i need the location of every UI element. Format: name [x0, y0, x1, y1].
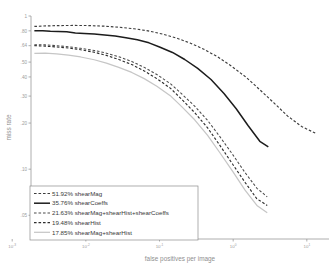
x-tick-label: 101	[303, 243, 310, 249]
y-tick-label: .64	[21, 43, 28, 48]
curve-shearCoeffs	[34, 31, 268, 147]
legend-label-shearMag+shearHist: 17.85% shearMag+shearHist	[52, 229, 132, 236]
x-axis-title: false positives per image	[145, 255, 216, 263]
legend-label-shearHist: 19.48% shearHist	[52, 219, 101, 226]
curve-shearMag	[34, 25, 315, 133]
y-tick-label: .40	[21, 75, 28, 80]
y-axis-title: miss rate	[5, 114, 12, 140]
det-curve-figure: 1.80.64.50.40.30.20.10.0510-310-210-1100…	[0, 0, 334, 272]
curve-shearMag+shearHist+shearCoeffs	[34, 45, 267, 197]
legend-label-shearCoeffs: 35.76% shearCoeffs	[52, 199, 108, 206]
x-tick-label: 10-2	[82, 243, 90, 249]
x-tick-label: 10-3	[8, 243, 16, 249]
curve-shearHist	[34, 46, 267, 206]
y-tick-label: .10	[21, 167, 28, 172]
legend-label-shearMag: 51.92% shearMag	[52, 190, 103, 197]
y-tick-label: .20	[21, 121, 28, 126]
x-tick-label: 100	[230, 243, 237, 249]
y-tick-label: 1	[24, 14, 27, 19]
y-tick-label: .80	[21, 29, 28, 34]
y-tick-label: .05	[21, 213, 28, 218]
det-plot-svg: 1.80.64.50.40.30.20.10.0510-310-210-1100…	[0, 0, 334, 272]
x-tick-label: 10-1	[156, 243, 164, 249]
y-tick-label: .50	[21, 60, 28, 65]
y-tick-label: .30	[21, 94, 28, 99]
legend-label-shearMag+shearHist+shearCoeffs: 21.63% shearMag+shearHist+shearCoeffs	[52, 209, 169, 216]
